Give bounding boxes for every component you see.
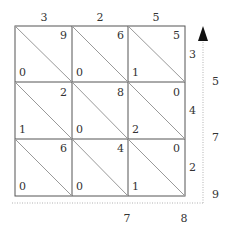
lattice-diagonals	[15, 26, 185, 196]
cell-tens: 1	[19, 123, 26, 136]
cell-ones: 8	[117, 86, 124, 99]
result-digit: 9	[212, 188, 219, 201]
right-digit: 4	[189, 104, 196, 117]
cell-ones: 6	[60, 142, 67, 155]
arrow-up-icon	[198, 26, 208, 41]
cell-tens: 0	[19, 66, 26, 79]
top-digit: 5	[153, 11, 160, 24]
right-digit: 3	[189, 48, 196, 61]
lattice-diagram: 3 2 5 3 4 2 9 0 6 0 5 1 2 1 8 0 0 2 6 0 …	[0, 0, 232, 234]
cell-tens: 0	[76, 66, 83, 79]
top-digit: 2	[97, 11, 104, 24]
cell-ones: 9	[60, 29, 67, 42]
top-digit: 3	[41, 11, 48, 24]
cell-tens: 1	[132, 66, 139, 79]
cell-tens: 2	[132, 123, 139, 136]
cell-tens: 0	[76, 123, 83, 136]
cell-tens: 1	[132, 180, 139, 193]
cell-tens: 0	[19, 180, 26, 193]
result-digit: 7	[212, 131, 219, 144]
cell-ones: 2	[60, 86, 67, 99]
cell-ones: 6	[117, 29, 124, 42]
result-digit: 8	[181, 212, 188, 225]
cell-ones: 0	[173, 142, 180, 155]
result-digit: 5	[212, 75, 219, 88]
right-digit: 2	[189, 161, 196, 174]
cell-ones: 0	[173, 86, 180, 99]
result-digit: 7	[124, 212, 131, 225]
cell-tens: 0	[76, 180, 83, 193]
cell-ones: 4	[117, 142, 124, 155]
cell-ones: 5	[173, 29, 180, 42]
